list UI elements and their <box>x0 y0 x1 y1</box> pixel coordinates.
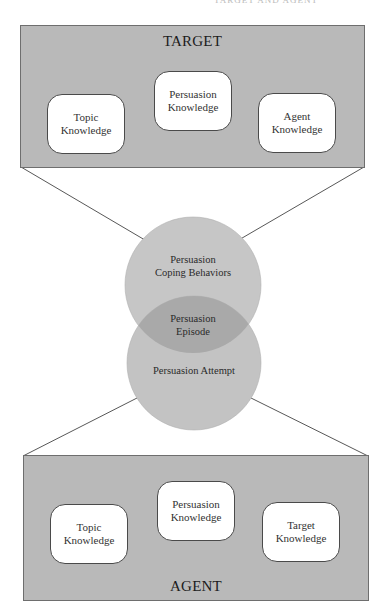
connector-line-target-left <box>21 167 150 243</box>
target-persuasion-knowledge-box: Persuasion Knowledge <box>154 71 232 131</box>
connector-line-agent-right <box>251 398 368 456</box>
agent-topic-knowledge-box: Topic Knowledge <box>50 504 128 564</box>
box-label-line1: Target <box>276 519 327 532</box>
box-label-line1: Persuasion <box>171 498 222 511</box>
agent-persuasion-knowledge-box: Persuasion Knowledge <box>157 481 235 541</box>
agent-panel-title: AGENT <box>24 578 368 595</box>
box-label-line2: Knowledge <box>171 511 222 524</box>
target-topic-knowledge-box: Topic Knowledge <box>47 94 125 154</box>
persuasion-coping-behaviors-label: Persuasion Coping Behaviors <box>133 253 253 279</box>
persuasion-attempt-label: Persuasion Attempt <box>134 364 254 377</box>
box-label-line2: Knowledge <box>276 532 327 545</box>
box-label-line1: Agent <box>272 110 323 123</box>
persuasion-episode-label: Persuasion Episode <box>143 312 243 338</box>
running-head: TARGET AND AGENT <box>214 0 374 3</box>
connector-line-agent-left <box>23 398 137 456</box>
target-agent-knowledge-box: Agent Knowledge <box>258 93 336 153</box>
agent-target-knowledge-box: Target Knowledge <box>262 502 340 562</box>
connector-line-target-right <box>237 167 364 241</box>
box-label-line2: Knowledge <box>272 123 323 136</box>
circle-label-line1: Persuasion <box>133 253 253 266</box>
box-label-line2: Knowledge <box>61 124 112 137</box>
target-panel-title: TARGET <box>21 33 364 50</box>
box-label-line2: Knowledge <box>168 101 219 114</box>
box-label-line1: Persuasion <box>168 88 219 101</box>
box-label-line1: Topic <box>61 111 112 124</box>
circle-label-text: Persuasion Attempt <box>134 364 254 377</box>
box-label-line2: Knowledge <box>64 534 115 547</box>
circle-label-line2: Episode <box>143 325 243 338</box>
box-label-line1: Topic <box>64 521 115 534</box>
circle-label-line2: Coping Behaviors <box>133 266 253 279</box>
circle-label-line1: Persuasion <box>143 312 243 325</box>
